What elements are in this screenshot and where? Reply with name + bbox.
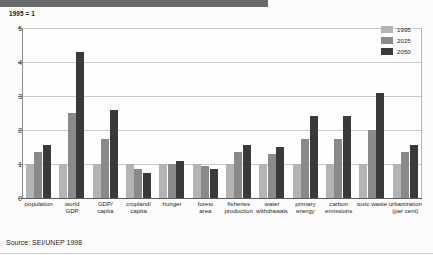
x-tick-label-line: emissions (315, 207, 363, 214)
bar (376, 93, 384, 198)
bar (301, 139, 309, 199)
bar (210, 169, 218, 198)
bar (259, 164, 267, 198)
bar (101, 139, 109, 199)
bar (168, 164, 176, 198)
bar (193, 164, 201, 198)
figure-container: 1995 = 1 012345 populationworldGDPGDP/ca… (0, 0, 433, 255)
bar (343, 116, 351, 198)
bar (310, 116, 318, 198)
legend-item: 2025 (381, 36, 427, 45)
bar-group (26, 28, 51, 198)
bar (268, 154, 276, 198)
bar (201, 166, 209, 198)
bar (243, 145, 251, 198)
bar (34, 152, 42, 198)
legend: 199520252050 (381, 25, 427, 58)
x-tick-label: urbanization(per cent) (381, 200, 429, 214)
legend-swatch (381, 37, 393, 44)
bar (93, 164, 101, 198)
bar (226, 164, 234, 198)
bar (134, 169, 142, 198)
bar-group (259, 28, 284, 198)
bar (334, 139, 342, 199)
legend-swatch (381, 48, 393, 55)
bar (43, 145, 51, 198)
bar-group (326, 28, 351, 198)
bar (393, 164, 401, 198)
bar (293, 164, 301, 198)
bar-group (93, 28, 118, 198)
bar (176, 161, 184, 198)
bars-layer (22, 28, 422, 198)
y-axis: 012345 (0, 0, 22, 255)
bar (110, 110, 118, 198)
bar (143, 173, 151, 199)
bar (59, 164, 67, 198)
bar (276, 147, 284, 198)
bar (26, 164, 34, 198)
legend-item: 2050 (381, 47, 427, 56)
legend-label: 2050 (397, 48, 411, 55)
source-note: Source: SEI/UNEP 1998 (6, 239, 82, 246)
x-axis-tick-labels: populationworldGDPGDP/capitacropland/cap… (22, 200, 422, 230)
bottom-rule (0, 253, 433, 254)
bar (68, 113, 76, 198)
bar-group (126, 28, 151, 198)
bar (368, 130, 376, 198)
header-rule (0, 0, 268, 7)
legend-item: 1995 (381, 25, 427, 34)
bar-group (59, 28, 84, 198)
x-axis-line (22, 198, 422, 199)
bar (234, 152, 242, 198)
legend-swatch (381, 26, 393, 33)
bar-group (193, 28, 218, 198)
bar (126, 164, 134, 198)
bar-group (226, 28, 251, 198)
bar (159, 164, 167, 198)
bar (326, 164, 334, 198)
bar-group (159, 28, 184, 198)
legend-label: 1995 (397, 26, 411, 33)
bar (359, 164, 367, 198)
x-tick-label-line: capita (115, 207, 163, 214)
bar-group (293, 28, 318, 198)
bar (410, 145, 418, 198)
legend-label: 2025 (397, 37, 411, 44)
bar (76, 52, 84, 198)
x-tick-label-line: (per cent) (381, 207, 429, 214)
bar (401, 152, 409, 198)
x-tick-label-line: urbanization (381, 200, 429, 207)
